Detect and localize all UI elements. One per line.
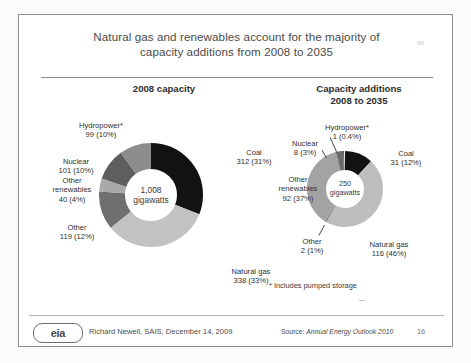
label-right-coal-value: 31 (12%)	[375, 158, 437, 167]
label-left-other-renewables-name-2: renewables	[31, 185, 113, 194]
right-chart-heading: Capacity additions 2008 to 2035	[274, 83, 444, 106]
label-left-other: Other 119 (12%)	[41, 223, 113, 242]
label-right-other-renewables-value: 92 (37%)	[267, 194, 329, 203]
label-right-other-value: 2 (1%)	[289, 246, 335, 255]
source-citation: Source: Annual Energy Outlook 2010	[281, 328, 393, 335]
label-right-natural-gas-value: 116 (46%)	[349, 249, 429, 258]
label-right-coal-name: Coal	[375, 149, 437, 158]
label-left-other-renewables: Other renewables 40 (4%)	[31, 176, 113, 204]
page-title: Natural gas and renewables account for t…	[19, 29, 454, 59]
scan-artifact-lower	[359, 300, 365, 301]
title-divider	[41, 77, 433, 78]
label-left-nuclear: Nuclear 101 (10%)	[39, 157, 113, 176]
title-line-1: Natural gas and renewables account for t…	[19, 29, 454, 44]
label-left-other-value: 119 (12%)	[41, 232, 113, 241]
left-chart-heading: 2008 capacity	[79, 83, 249, 95]
title-line-2: capacity additions from 2008 to 2035	[19, 44, 454, 59]
scan-artifact	[417, 41, 424, 45]
eia-logo-text: eia	[51, 328, 65, 339]
byline: Richard Newell, SAIS, December 14, 2009	[89, 327, 233, 336]
label-right-other: Other 2 (1%)	[289, 237, 335, 256]
donut-chart-2008-capacity: 1,008 gigawatts	[99, 143, 203, 247]
label-left-natural-gas-name: Natural gas	[205, 267, 297, 276]
label-left-hydropower: Hydropower* 99 (10%)	[55, 121, 147, 140]
slide-canvas: Natural gas and renewables account for t…	[18, 14, 453, 347]
label-left-other-name: Other	[41, 223, 113, 232]
label-left-hydropower-value: 99 (10%)	[55, 130, 147, 139]
label-right-natural-gas-name: Natural gas	[349, 240, 429, 249]
label-right-other-name: Other	[289, 237, 335, 246]
source-title: Annual Energy Outlook 2010	[306, 328, 393, 335]
right-chart-heading-line-2: 2008 to 2035	[274, 95, 444, 107]
label-left-nuclear-name: Nuclear	[39, 157, 113, 166]
label-right-hydropower-name: Hydropower*	[305, 123, 389, 132]
footer-divider	[29, 315, 444, 316]
label-right-coal: Coal 31 (12%)	[375, 149, 437, 168]
right-chart-heading-line-1: Capacity additions	[274, 83, 444, 95]
label-left-other-renewables-name-1: Other	[31, 176, 113, 185]
label-right-other-renewables-name-2: renewables	[267, 184, 329, 193]
label-left-other-renewables-value: 40 (4%)	[31, 195, 113, 204]
donut-left-svg	[99, 143, 203, 247]
source-prefix: Source:	[281, 328, 306, 335]
label-left-nuclear-value: 101 (10%)	[39, 166, 113, 175]
footnote: * Includes pumped storage	[269, 281, 357, 290]
left-chart-heading-line-1: 2008 capacity	[79, 83, 249, 95]
label-right-other-renewables-name-1: Other	[267, 175, 329, 184]
eia-logo: eia	[33, 323, 83, 343]
label-right-other-renewables: Other renewables 92 (37%)	[267, 175, 329, 203]
page-number: 16	[417, 327, 425, 336]
label-left-hydropower-name: Hydropower*	[55, 121, 147, 130]
label-right-natural-gas: Natural gas 116 (46%)	[349, 240, 429, 259]
label-left-coal-value: 312 (31%)	[215, 157, 293, 166]
label-right-nuclear-name: Nuclear	[277, 139, 333, 148]
